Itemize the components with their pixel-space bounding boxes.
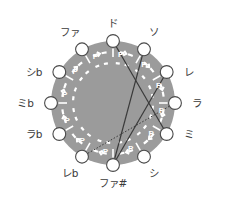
- note-label-fa-sharp: ファ#: [99, 177, 128, 189]
- p-label-fa: P: [93, 52, 99, 61]
- p-label-si-flat: P: [72, 67, 78, 76]
- node-si-flat[interactable]: [53, 66, 66, 79]
- p-label-si: P: [128, 144, 134, 153]
- p-label-mi-flat: P: [62, 90, 68, 99]
- note-label-fa: ファ: [60, 26, 80, 38]
- note-label-si-flat: シb: [26, 66, 43, 78]
- p-label-re: P: [156, 81, 162, 90]
- p-label-so: P: [141, 60, 147, 69]
- p-label-la: P: [159, 106, 165, 115]
- note-label-mi-flat: ミb: [17, 97, 34, 109]
- node-re[interactable]: [160, 66, 173, 79]
- p-label-fa-sharp: P: [103, 147, 109, 156]
- p-label-re-flat: P: [79, 136, 85, 145]
- p-label-mi: P: [148, 129, 154, 138]
- node-la[interactable]: [169, 97, 182, 110]
- tone-circle-diagram: PPPPPPPPPPPP ドソレラミシファ#レbラbミbシbファ: [0, 0, 227, 199]
- tone-circle-svg: PPPPPPPPPPPP ドソレラミシファ#レbラbミbシbファ: [0, 0, 227, 199]
- node-mi[interactable]: [160, 128, 173, 141]
- note-label-re: レ: [184, 66, 194, 78]
- note-label-mi: ミ: [184, 128, 194, 140]
- note-label-so: ソ: [149, 26, 159, 38]
- note-label-la-flat: ラb: [26, 128, 43, 140]
- node-so[interactable]: [138, 43, 151, 56]
- note-label-si: シ: [149, 167, 159, 179]
- note-label-la: ラ: [192, 97, 202, 109]
- node-si[interactable]: [138, 150, 151, 163]
- node-fa[interactable]: [76, 43, 89, 56]
- note-label-re-flat: レb: [62, 167, 79, 179]
- tone-disc: [51, 41, 175, 165]
- node-mi-flat[interactable]: [45, 97, 58, 110]
- node-la-flat[interactable]: [53, 128, 66, 141]
- node-do[interactable]: [107, 35, 120, 48]
- note-label-do: ド: [108, 17, 118, 29]
- disc-layer: [51, 41, 175, 165]
- node-re-flat[interactable]: [76, 150, 89, 163]
- p-label-la-flat: P: [65, 116, 71, 125]
- p-label-do: P: [118, 50, 124, 59]
- node-fa-sharp[interactable]: [107, 159, 120, 172]
